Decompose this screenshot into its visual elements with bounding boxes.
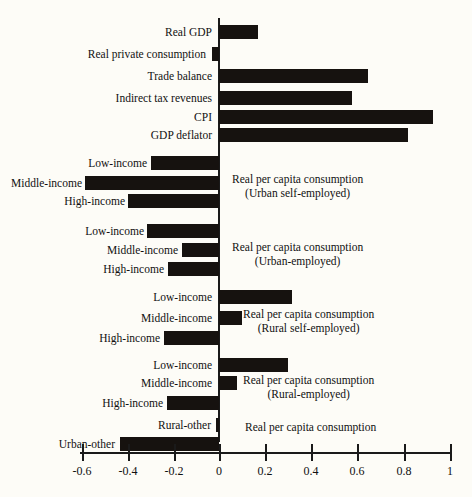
axis-tick xyxy=(82,444,84,461)
group-annotation-line1: Real per capita consumption xyxy=(243,374,374,386)
bar-category-label: Real private consumption xyxy=(88,48,206,60)
bar-category-label: High-income xyxy=(99,332,160,344)
bar xyxy=(128,194,219,208)
bar-category-label: Middle-income xyxy=(141,312,212,324)
bar-category-label: Indirect tax revenues xyxy=(116,92,212,104)
axis-tick-label: 0 xyxy=(216,464,222,479)
bar xyxy=(219,25,258,39)
axis-tick xyxy=(219,444,221,461)
group-annotation-line2: (Rural-employed) xyxy=(243,387,374,401)
plot-area: Real GDPReal private consumptionTrade ba… xyxy=(0,0,472,440)
bar-category-label: GDP deflator xyxy=(151,129,212,141)
group-annotation-line2: (Rural self-employed) xyxy=(243,321,374,335)
bar-category-label: Rural-other xyxy=(158,419,211,431)
bar xyxy=(219,128,408,142)
group-annotation-line2: (Urban self-employed) xyxy=(232,186,363,200)
group-annotation-line1: Real per capita consumption xyxy=(245,421,376,433)
bar-category-label: Middle-income xyxy=(107,244,178,256)
bar xyxy=(182,243,219,257)
bar-category-label: Real GDP xyxy=(165,26,212,38)
bar-category-label: High-income xyxy=(64,195,125,207)
group-annotation: Real per capita consumption(Rural-employ… xyxy=(243,373,374,401)
bar-category-label: Low-income xyxy=(85,225,144,237)
bar xyxy=(219,69,368,83)
axis-tick xyxy=(311,444,313,461)
bar xyxy=(164,331,219,345)
group-annotation: Real per capita consumption xyxy=(245,420,376,434)
bar xyxy=(167,396,219,410)
group-annotation-line1: Real per capita consumption xyxy=(243,308,374,320)
bar xyxy=(151,156,219,170)
group-annotation: Real per capita consumption(Urban self-e… xyxy=(232,172,363,200)
x-axis: -0.6-0.4-0.200.20.40.60.81 xyxy=(0,440,472,497)
axis-tick-label: 0.4 xyxy=(304,464,319,479)
axis-tick-label: 0.8 xyxy=(397,464,412,479)
axis-tick-label: -0.4 xyxy=(119,464,138,479)
axis-tick-label: -0.2 xyxy=(165,464,184,479)
axis-tick-label: 1 xyxy=(447,464,453,479)
axis-tick xyxy=(450,444,452,461)
bar xyxy=(219,91,352,105)
bar-category-label: Trade balance xyxy=(148,70,212,82)
bar-category-label: Low-income xyxy=(153,359,212,371)
bar-category-label: Middle-income xyxy=(11,177,82,189)
axis-tick-label: 0.2 xyxy=(258,464,273,479)
group-annotation-line1: Real per capita consumption xyxy=(232,173,363,185)
axis-tick xyxy=(357,444,359,461)
bar xyxy=(219,290,292,304)
bar-category-label: CPI xyxy=(194,111,212,123)
group-annotation: Real per capita consumption(Urban-employ… xyxy=(232,240,363,268)
axis-tick xyxy=(265,444,267,461)
bar xyxy=(216,418,219,432)
bar xyxy=(219,311,242,325)
bar xyxy=(147,224,219,238)
bar xyxy=(219,376,237,390)
bar xyxy=(85,176,219,190)
bar xyxy=(219,358,288,372)
bar-category-label: Middle-income xyxy=(141,377,212,389)
bar-chart: Real GDPReal private consumptionTrade ba… xyxy=(0,0,472,497)
bar-category-label: High-income xyxy=(103,263,164,275)
bar xyxy=(212,47,219,61)
bar-category-label: Low-income xyxy=(153,291,212,303)
axis-tick xyxy=(174,444,176,461)
group-annotation-line1: Real per capita consumption xyxy=(232,241,363,253)
bar-category-label: High-income xyxy=(102,397,163,409)
group-annotation-line2: (Urban-employed) xyxy=(232,254,363,268)
axis-tick xyxy=(128,444,130,461)
bar xyxy=(219,110,433,124)
group-annotation: Real per capita consumption(Rural self-e… xyxy=(243,307,374,335)
bar xyxy=(168,262,219,276)
bar-category-label: Low-income xyxy=(88,157,147,169)
axis-tick xyxy=(404,444,406,461)
axis-tick-label: -0.6 xyxy=(73,464,92,479)
axis-tick-label: 0.6 xyxy=(350,464,365,479)
